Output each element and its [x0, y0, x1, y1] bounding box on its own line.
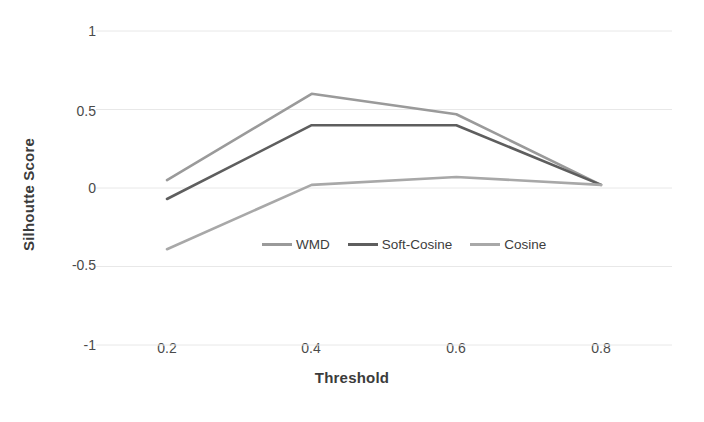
plot-area	[0, 0, 704, 422]
legend-item-cosine[interactable]: Cosine	[470, 237, 546, 252]
legend-item-soft-cosine[interactable]: Soft-Cosine	[348, 237, 453, 252]
legend-swatch-wmd	[262, 243, 292, 246]
legend-label-wmd: WMD	[296, 237, 330, 252]
series-lines	[167, 94, 601, 249]
legend-label-soft-cosine: Soft-Cosine	[382, 237, 453, 252]
legend-swatch-cosine	[470, 243, 500, 246]
silhouette-score-line-chart: Silhoutte Score 1 0.5 0 -0.5 -1 0.2 0.4 …	[0, 0, 704, 422]
legend-item-wmd[interactable]: WMD	[262, 237, 330, 252]
x-axis-title: Threshold	[0, 369, 704, 386]
series-line-wmd	[167, 94, 601, 185]
chart-legend: WMDSoft-CosineCosine	[262, 237, 564, 252]
legend-label-cosine: Cosine	[504, 237, 546, 252]
legend-swatch-soft-cosine	[348, 243, 378, 246]
gridlines	[96, 31, 672, 345]
